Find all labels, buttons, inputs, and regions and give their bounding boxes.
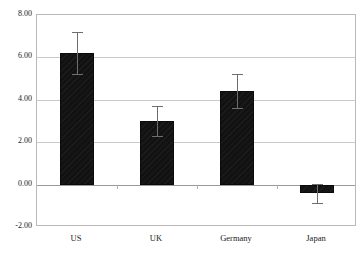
error-bar-cap [152,136,163,137]
error-bar-stem [157,106,158,121]
y-axis-tick-label: 8.00 [0,10,32,18]
zero-axis-tick [197,185,198,189]
bar-chart: 8.006.004.002.000.00-2.00 USUKGermanyJap… [0,0,364,256]
y-axis-tick-label: 6.00 [0,52,32,60]
error-bar-cap [312,184,323,185]
error-bar-stem [317,193,318,203]
error-bar-stem [237,74,238,91]
x-axis-tick-label: Germany [196,234,276,243]
error-bar-stem [77,32,78,53]
error-bar-cap [72,74,83,75]
x-axis-tick-label: Japan [276,234,356,243]
error-bar-cap [152,106,163,107]
zero-axis-tick [277,185,278,189]
error-bar-cap [312,203,323,204]
x-axis-tick-label: US [36,234,116,243]
error-bar-cap [232,108,243,109]
plot-area [36,14,356,226]
y-axis-tick-label: 4.00 [0,95,32,103]
error-bar-cap [232,74,243,75]
y-axis-tick-label: 2.00 [0,137,32,145]
y-axis-tick-label: -2.00 [0,222,32,230]
error-bar-cap [72,32,83,33]
zero-axis-tick [117,185,118,189]
x-axis-tick-label: UK [116,234,196,243]
y-axis-tick-label: 0.00 [0,180,32,188]
